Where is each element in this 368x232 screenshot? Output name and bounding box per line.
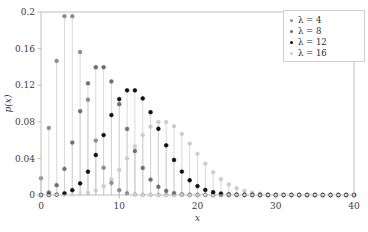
data-point xyxy=(149,178,153,182)
poisson-pmf-figure: 00.040.080.120.160.2010203040xp(x) λ = 4… xyxy=(0,0,368,232)
data-point xyxy=(227,182,231,186)
data-point xyxy=(164,120,168,124)
data-point xyxy=(141,133,145,137)
data-point xyxy=(180,132,184,136)
data-point xyxy=(211,170,215,174)
legend: λ = 4λ = 8λ = 12λ = 16 xyxy=(283,10,365,62)
x-axis-title: x xyxy=(195,213,200,223)
legend-item: λ = 8 xyxy=(284,26,364,37)
data-point xyxy=(125,127,129,131)
data-point xyxy=(63,14,67,18)
data-point xyxy=(164,189,168,193)
data-point xyxy=(164,143,168,147)
data-point xyxy=(86,81,90,85)
data-point xyxy=(203,162,207,166)
data-point xyxy=(133,144,137,148)
data-point xyxy=(133,149,137,153)
data-point xyxy=(203,188,207,192)
data-point xyxy=(141,96,145,100)
data-point xyxy=(156,120,160,124)
data-point xyxy=(78,181,82,185)
data-point xyxy=(172,158,176,162)
data-point xyxy=(188,178,192,182)
data-point xyxy=(63,167,67,171)
data-point xyxy=(102,65,106,69)
legend-item: λ = 16 xyxy=(284,48,364,59)
x-tick-label: 0 xyxy=(38,201,44,211)
data-point xyxy=(149,125,153,129)
data-point xyxy=(196,152,200,156)
stems-layer xyxy=(41,16,260,195)
y-tick-label: 0 xyxy=(29,190,35,200)
data-point xyxy=(86,170,90,174)
data-point xyxy=(70,188,74,192)
data-point xyxy=(125,88,129,92)
data-point xyxy=(188,142,192,146)
data-point xyxy=(172,124,176,128)
legend-label: λ = 8 xyxy=(298,26,321,37)
legend-marker-icon xyxy=(290,52,293,55)
data-point xyxy=(94,189,98,193)
data-point xyxy=(235,186,239,190)
data-point xyxy=(117,97,121,101)
x-tick-label: 30 xyxy=(270,201,282,211)
y-tick-label: 0.16 xyxy=(15,44,35,54)
data-point xyxy=(117,102,121,106)
data-point xyxy=(172,191,176,195)
x-tick-label: 20 xyxy=(192,201,204,211)
data-point xyxy=(133,88,137,92)
data-point xyxy=(110,113,114,117)
data-point xyxy=(196,184,200,188)
data-point xyxy=(180,170,184,174)
data-point xyxy=(156,185,160,189)
data-point xyxy=(149,110,153,114)
data-point xyxy=(55,183,59,187)
data-point xyxy=(110,177,114,181)
data-point xyxy=(78,109,82,113)
legend-item: λ = 12 xyxy=(284,37,364,48)
data-point xyxy=(102,166,106,170)
x-tick-label: 10 xyxy=(114,201,126,211)
data-point xyxy=(102,184,106,188)
y-tick-label: 0.2 xyxy=(21,7,35,17)
y-tick-label: 0.04 xyxy=(15,154,35,164)
data-point xyxy=(94,139,98,143)
data-point xyxy=(102,133,106,137)
data-point xyxy=(94,65,98,69)
legend-item: λ = 4 xyxy=(284,15,364,26)
data-point xyxy=(86,98,90,102)
legend-label: λ = 12 xyxy=(298,37,327,48)
data-point xyxy=(125,157,129,161)
data-point xyxy=(70,14,74,18)
legend-marker-icon xyxy=(290,30,293,33)
legend-label: λ = 16 xyxy=(298,48,327,59)
data-point xyxy=(47,126,51,130)
y-tick-label: 0.12 xyxy=(15,80,35,90)
legend-label: λ = 4 xyxy=(298,15,321,26)
data-point xyxy=(141,166,145,170)
data-point xyxy=(55,59,59,63)
data-point xyxy=(243,189,247,193)
data-point xyxy=(70,141,74,145)
data-point xyxy=(211,190,215,194)
data-point xyxy=(94,153,98,157)
legend-marker-icon xyxy=(290,19,293,22)
y-axis-title: p(x) xyxy=(3,94,13,112)
data-point xyxy=(78,50,82,54)
data-point xyxy=(117,188,121,192)
data-point xyxy=(117,168,121,172)
legend-marker-icon xyxy=(290,41,293,44)
data-point xyxy=(110,80,114,84)
data-point xyxy=(156,127,160,131)
x-tick-label: 40 xyxy=(348,201,360,211)
data-point xyxy=(110,181,114,185)
y-tick-label: 0.08 xyxy=(15,117,35,127)
data-point xyxy=(219,177,223,181)
data-point xyxy=(86,191,90,195)
